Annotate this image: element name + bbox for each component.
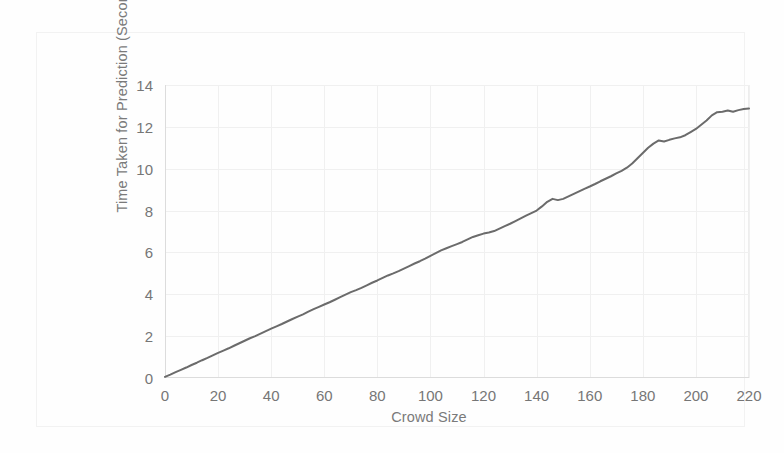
x-tick-label: 20 <box>210 387 227 404</box>
x-tick-label: 140 <box>524 387 549 404</box>
x-tick-label: 80 <box>369 387 386 404</box>
x-tick-label: 160 <box>577 387 602 404</box>
y-tick-label: 4 <box>145 286 153 303</box>
y-tick-label: 12 <box>136 118 153 135</box>
y-tick-label: 0 <box>145 370 153 387</box>
x-tick-label: 40 <box>263 387 280 404</box>
x-tick-label: 60 <box>316 387 333 404</box>
x-tick-label: 120 <box>471 387 496 404</box>
plot-area: 02468101214 0204060801001201401601802002… <box>165 85 749 378</box>
y-tick-label: 14 <box>136 77 153 94</box>
x-axis-title: Crowd Size <box>37 409 784 425</box>
line-series <box>165 85 749 378</box>
x-tick-label: 200 <box>683 387 708 404</box>
y-tick-label: 10 <box>136 160 153 177</box>
y-tick-label: 2 <box>145 328 153 345</box>
gridline-v <box>749 85 750 378</box>
chart-outer-frame: Time Taken for Prediction (Seconds) 0246… <box>36 32 745 427</box>
x-tick-label: 100 <box>418 387 443 404</box>
x-tick-label: 180 <box>630 387 655 404</box>
y-tick-label: 6 <box>145 244 153 261</box>
series-prediction-time <box>165 108 749 377</box>
chart-root: Time Taken for Prediction (Seconds) 0246… <box>37 33 744 426</box>
x-tick-label: 220 <box>736 387 761 404</box>
y-axis-title: Time Taken for Prediction (Seconds) <box>114 0 134 243</box>
x-tick-label: 0 <box>161 387 169 404</box>
figure-page: Time Taken for Prediction (Seconds) 0246… <box>0 0 784 453</box>
y-tick-label: 8 <box>145 202 153 219</box>
